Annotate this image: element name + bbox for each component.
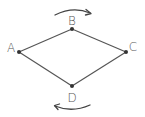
vertex-c <box>124 50 128 54</box>
edge-a-b <box>19 29 72 52</box>
label-a: A <box>7 41 15 55</box>
label-c: C <box>129 40 137 54</box>
vertex-a <box>17 50 21 54</box>
edge-d-a <box>19 52 72 86</box>
rhombus-edges <box>19 29 126 86</box>
vertex-d <box>70 84 74 88</box>
vertex-labels: A B C D <box>7 14 137 105</box>
edge-c-d <box>72 52 126 86</box>
label-b: B <box>68 14 76 28</box>
rhombus-vertices <box>17 27 128 88</box>
rhombus-diagram: A B C D <box>0 0 145 117</box>
edge-b-c <box>72 29 126 52</box>
label-d: D <box>67 91 76 105</box>
